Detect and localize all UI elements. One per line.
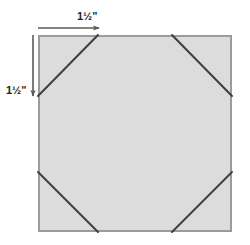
square-corner-diagram — [0, 0, 250, 245]
top-dimension-label: 1½" — [77, 11, 98, 22]
diagram-root: 1½" 1½" — [0, 0, 250, 245]
left-dimension-label: 1½" — [6, 85, 27, 96]
